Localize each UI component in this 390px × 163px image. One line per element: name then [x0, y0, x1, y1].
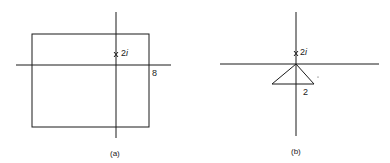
caption-a: (a)	[110, 150, 120, 158]
caption-b: (b)	[291, 148, 301, 156]
contour-rectangle	[32, 34, 149, 127]
pole-label-a-imag: i	[126, 48, 128, 58]
panel-b	[220, 12, 379, 136]
pole-label-a: 2i	[121, 49, 128, 58]
pole-label-b: 2i	[300, 48, 307, 57]
panel-a	[16, 12, 171, 138]
pole-label-b-imag: i	[305, 47, 307, 57]
width-label-a: 8	[152, 69, 157, 78]
diagram-canvas	[0, 0, 390, 163]
width-label-b: 2	[303, 88, 308, 97]
stray-dot	[318, 77, 319, 78]
contour-triangle	[272, 64, 314, 84]
